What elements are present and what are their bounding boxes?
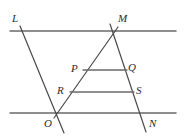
point-label-Q: Q [128,62,136,73]
point-label-P: P [71,63,78,74]
geometry-figure: L M P Q R S O N [0,0,184,139]
transversal-L-O [20,26,64,133]
figure-canvas [0,0,184,139]
point-label-N: N [149,118,156,129]
point-label-O: O [44,118,52,129]
point-label-L: L [12,13,18,24]
transversal-M-N [110,24,146,132]
parallel-lines-group [10,31,176,113]
point-label-R: R [57,85,64,96]
transversals-group [20,24,146,133]
transversal-O-M [54,27,118,118]
point-label-S: S [136,85,142,96]
point-label-M: M [118,13,127,24]
